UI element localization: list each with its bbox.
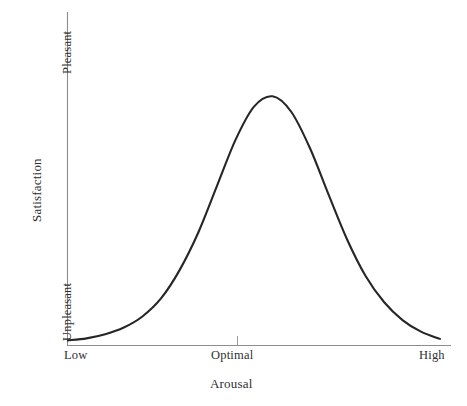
x-axis-label-optimal: Optimal: [211, 349, 253, 362]
y-axis-top-label: Pleasant: [61, 31, 74, 74]
x-axis-label-high: High: [419, 349, 445, 362]
satisfaction-curve: [68, 96, 440, 340]
chart-figure: Pleasant Unpleasant Satisfaction Low Opt…: [0, 0, 467, 406]
x-axis-label-low: Low: [64, 349, 88, 362]
y-axis-bottom-label: Unpleasant: [61, 283, 74, 341]
x-axis-title: Arousal: [210, 377, 253, 390]
y-axis-title: Satisfaction: [30, 158, 43, 222]
